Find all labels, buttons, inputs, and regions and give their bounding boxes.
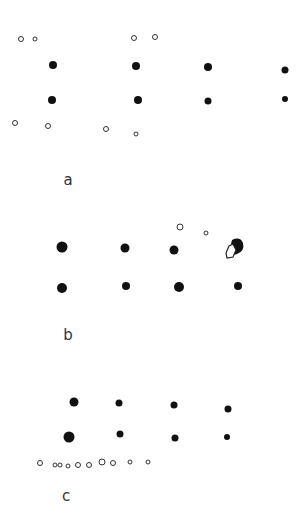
irregular-blob-shape bbox=[0, 0, 304, 529]
